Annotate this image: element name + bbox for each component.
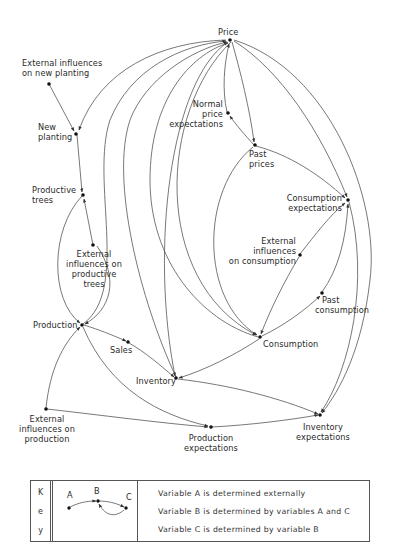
label-production: Production — [33, 320, 78, 330]
node-ext-production — [44, 407, 48, 411]
edge-normal-price-expectations-to-price — [224, 44, 229, 112]
key-letters-column: K e y — [31, 481, 53, 541]
label-past-prices: Past prices — [249, 149, 274, 169]
edge-production-to-sales — [84, 325, 126, 341]
key-node-a: A — [67, 490, 73, 500]
edge-consumption-to-inventory — [179, 339, 259, 378]
key-legend: K e y A B C Variable A is deter — [30, 480, 370, 542]
node-production-expectations — [209, 425, 213, 429]
edge-price-to-inventory — [164, 42, 228, 376]
node-ext-consumption — [298, 253, 302, 257]
edge-inventory-to-inventory-expectations — [178, 379, 318, 414]
edge-price-to-inventory-expectations — [234, 40, 371, 413]
label-ext-new-planting: External influences on new planting — [22, 58, 102, 78]
label-ext-consumption: External influences on consumption — [228, 236, 296, 266]
key-line-b: Variable B is determined by variables A … — [158, 507, 350, 516]
edge-inventory-to-price — [124, 42, 227, 377]
node-past-prices — [253, 143, 257, 147]
edge-price-to-consumption-expectations — [234, 41, 347, 197]
label-inventory: Inventory — [136, 376, 176, 386]
label-price: Price — [218, 27, 238, 37]
node-production — [80, 323, 84, 327]
node-inventory-expectations — [318, 413, 322, 417]
label-ext-productive-trees: External influences on productive trees — [64, 249, 124, 289]
node-consumption — [258, 335, 262, 339]
node-new-planting — [74, 132, 78, 136]
key-letter-k: K — [31, 488, 50, 497]
key-letter-y: y — [31, 526, 50, 535]
key-line-a: Variable A is determined externally — [158, 489, 306, 498]
label-sales: Sales — [110, 345, 132, 355]
edge-ext-productive-trees-to-productive-trees — [84, 199, 93, 245]
edge-ext-production-to-production — [46, 327, 80, 408]
edge-price-to-past-prices — [232, 42, 254, 142]
label-normal-price-expectations: Normal price expectations — [160, 99, 223, 129]
node-consumption-expectations — [346, 198, 350, 202]
label-new-planting: New planting — [38, 122, 72, 142]
edge-consumption-to-past-consumption — [262, 296, 320, 336]
label-consumption-expectations: Consumption expectations — [276, 193, 342, 213]
key-node-b: B — [94, 486, 100, 496]
label-consumption: Consumption — [263, 339, 318, 349]
key-letter-e: e — [31, 507, 50, 516]
label-production-expectations: Production expectations — [180, 433, 242, 453]
node-price — [228, 38, 232, 42]
node-ext-productive-trees — [91, 243, 95, 247]
key-example-diagram: A B C — [56, 481, 138, 541]
node-ext-new-planting — [47, 82, 51, 86]
label-ext-production: External influences on production — [16, 414, 78, 444]
key-line-c: Variable C is determined by variable B — [158, 525, 319, 534]
edge-past-consumption-to-consumption-expectations — [322, 204, 348, 292]
edge-ext-consumption-to-consumption — [261, 257, 299, 334]
label-past-consumption: Past consumption — [315, 295, 369, 315]
node-normal-price-expectations — [226, 111, 230, 115]
key-node-c: C — [126, 492, 132, 502]
node-productive-trees — [81, 193, 85, 197]
label-productive-trees: Productive trees — [32, 185, 76, 205]
edge-sales-to-inventory — [129, 343, 174, 377]
diagram-canvas — [0, 0, 401, 547]
edge-consumption-to-price — [150, 43, 258, 337]
label-inventory-expectations: Inventory expectations — [296, 422, 350, 442]
node-sales — [126, 340, 130, 344]
edge-new-planting-to-productive-trees — [77, 135, 82, 192]
